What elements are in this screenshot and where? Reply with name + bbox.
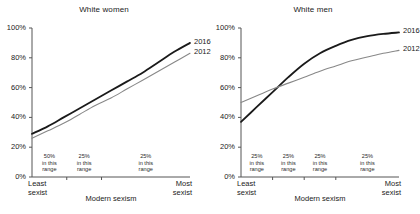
bin-annotation-line: in this: [67, 160, 102, 167]
panel-white-men: White men 0%20%40%60%80%100% 25%in thisr…: [209, 0, 417, 214]
bin-annotation-line: range: [304, 166, 336, 173]
bin-annotation: 25%in thisrange: [67, 153, 102, 173]
bin-annotation-line: range: [102, 166, 190, 173]
bin-annotation-line: 25%: [102, 153, 190, 160]
y-axis-tick-label: 0%: [0, 173, 26, 181]
series-label-2016: 2016: [403, 27, 420, 35]
bin-annotation-line: range: [241, 166, 273, 173]
bin-annotation-line: 25%: [273, 153, 305, 160]
x-axis-title: Modern sexism: [56, 194, 166, 203]
bin-annotation: 25%in thisrange: [273, 153, 305, 173]
series-lines: [241, 32, 399, 121]
series-lines: [32, 43, 190, 138]
y-axis-tick-label: 80%: [209, 54, 235, 62]
bin-annotation: 25%in thisrange: [336, 153, 399, 173]
y-axis-tick-label: 60%: [209, 84, 235, 92]
bin-annotation-line: 25%: [336, 153, 399, 160]
bin-annotation-line: 50%: [32, 153, 67, 160]
bin-annotation: 50%in thisrange: [32, 153, 67, 173]
series-line-2016: [32, 43, 190, 134]
y-axis-tick-label: 80%: [0, 54, 26, 62]
bin-annotation: 25%in thisrange: [102, 153, 190, 173]
bin-annotation-line: range: [32, 166, 67, 173]
bin-annotation-line: in this: [32, 160, 67, 167]
bin-annotation-line: range: [273, 166, 305, 173]
bin-annotation-line: 25%: [304, 153, 336, 160]
bin-annotation-line: 25%: [241, 153, 273, 160]
series-line-2012: [241, 50, 399, 102]
bin-annotation: 25%in thisrange: [241, 153, 273, 173]
bin-annotation-line: in this: [336, 160, 399, 167]
bin-annotation-line: in this: [241, 160, 273, 167]
bin-annotation: 25%in thisrange: [304, 153, 336, 173]
panel-white-women: White women 0%20%40%60%80%100% 50%in thi…: [0, 0, 208, 214]
y-axis-tick-label: 0%: [209, 173, 235, 181]
bin-annotation-line: range: [67, 166, 102, 173]
y-axis-tick-label: 40%: [0, 113, 26, 121]
series-label-2012: 2012: [403, 45, 420, 53]
y-axis-tick-label: 100%: [209, 24, 235, 32]
series-line-2012: [32, 53, 190, 138]
bin-annotation-line: in this: [304, 160, 336, 167]
bin-annotation-line: in this: [273, 160, 305, 167]
x-axis-title: Modern sexism: [265, 194, 375, 203]
y-axis-tick-label: 100%: [0, 24, 26, 32]
y-axis-tick-label: 20%: [209, 143, 235, 151]
y-axis-tick-label: 60%: [0, 84, 26, 92]
series-line-2016: [241, 32, 399, 121]
bin-annotation-line: 25%: [67, 153, 102, 160]
y-axis-tick-label: 40%: [209, 113, 235, 121]
bin-annotation-line: in this: [102, 160, 190, 167]
bin-annotation-line: range: [336, 166, 399, 173]
y-axis-tick-label: 20%: [0, 143, 26, 151]
